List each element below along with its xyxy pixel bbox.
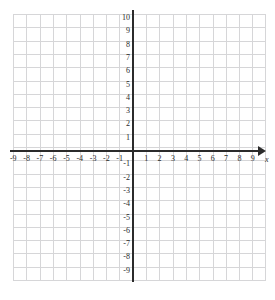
y-axis-line	[132, 10, 134, 282]
y-tick-label-3: 3	[116, 107, 130, 115]
x-tick-label--6: -6	[46, 155, 60, 163]
x-tick-label-9: 9	[246, 155, 260, 163]
x-tick-label-8: 8	[232, 155, 246, 163]
y-tick-label-6: 6	[116, 67, 130, 75]
x-tick-label--7: -7	[33, 155, 47, 163]
y-tick-label--6: -6	[116, 227, 130, 235]
grid-background	[13, 14, 266, 281]
grid-bottom-edge	[13, 280, 266, 281]
y-tick-label--7: -7	[116, 240, 130, 248]
y-tick-label-7: 7	[116, 54, 130, 62]
y-tick-label-9: 9	[116, 27, 130, 35]
y-tick-label-4: 4	[116, 94, 130, 102]
x-tick-label--5: -5	[60, 155, 74, 163]
x-tick-label-3: 3	[166, 155, 180, 163]
x-tick-label--4: -4	[73, 155, 87, 163]
y-tick-label--1: -1	[116, 160, 130, 168]
y-tick-label--3: -3	[116, 187, 130, 195]
x-tick-label-2: 2	[153, 155, 167, 163]
x-tick-label-5: 5	[193, 155, 207, 163]
x-tick-label--3: -3	[86, 155, 100, 163]
x-tick-label-7: 7	[219, 155, 233, 163]
x-tick-label--9: -9	[6, 155, 20, 163]
x-axis-line	[10, 150, 262, 152]
x-tick-label-6: 6	[206, 155, 220, 163]
x-tick-label-4: 4	[179, 155, 193, 163]
y-tick-label--2: -2	[116, 174, 130, 182]
y-tick-label--4: -4	[116, 200, 130, 208]
y-tick-label--8: -8	[116, 253, 130, 261]
y-tick-label-5: 5	[116, 81, 130, 89]
y-tick-label-10: 10	[116, 14, 130, 22]
y-tick-label-2: 2	[116, 120, 130, 128]
x-tick-label-1: 1	[139, 155, 153, 163]
y-tick-label-8: 8	[116, 41, 130, 49]
y-tick-label--9: -9	[116, 267, 130, 275]
y-tick-label--5: -5	[116, 214, 130, 222]
x-tick-label--2: -2	[99, 155, 113, 163]
x-axis-label: x	[265, 156, 269, 164]
y-tick-label-1: 1	[116, 134, 130, 142]
coordinate-plane: -9-8-7-6-5-4-3-2-112345678910987654321-1…	[0, 0, 275, 300]
x-tick-label--8: -8	[20, 155, 34, 163]
